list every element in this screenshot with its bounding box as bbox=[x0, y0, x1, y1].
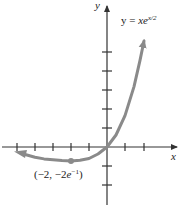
function-label-exponent: x/2 bbox=[148, 14, 157, 22]
function-curve bbox=[26, 41, 144, 161]
function-label: y = xex/2 bbox=[121, 14, 157, 26]
curve-left-arrow-icon bbox=[14, 150, 27, 158]
y-axis bbox=[102, 6, 112, 205]
point-label-prefix: (−2, −2 bbox=[34, 168, 67, 180]
function-label-base: xe bbox=[138, 14, 148, 26]
point-label-exponent: −1 bbox=[71, 168, 78, 176]
y-axis-label: y bbox=[95, 0, 100, 11]
function-label-prefix: y = bbox=[121, 14, 138, 26]
x-axis bbox=[2, 143, 177, 151]
point-label-suffix: ) bbox=[79, 168, 83, 180]
graph-canvas bbox=[0, 0, 185, 212]
minimum-point-label: (−2, −2e−1) bbox=[34, 168, 83, 180]
x-axis-label: x bbox=[171, 150, 176, 162]
minimum-point bbox=[68, 158, 74, 164]
